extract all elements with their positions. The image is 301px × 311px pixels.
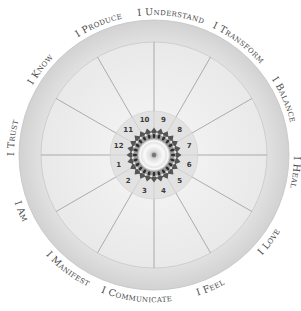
mandala-dot (170, 141, 172, 143)
mandala-dot (133, 146, 135, 148)
house-number: 4 (161, 187, 166, 195)
mandala-dot (132, 151, 134, 153)
mandala-dot (156, 133, 158, 135)
mandala-dot (174, 157, 176, 159)
mandala-dot (136, 141, 138, 143)
mandala-dot (166, 171, 168, 173)
mandala-dot (156, 175, 158, 177)
house-number: 8 (177, 126, 182, 134)
mandala-dot (145, 134, 147, 136)
house-number: 5 (177, 177, 182, 185)
affirmation-label: I TRUST (5, 119, 20, 156)
affirmation-label: I HEAL (288, 156, 301, 189)
house-number: 11 (123, 126, 133, 134)
mandala-dot (132, 157, 134, 159)
mandala-dot (166, 137, 168, 139)
house-number: 1 (116, 161, 121, 169)
mandala-dot (174, 151, 176, 153)
house-number: 12 (114, 142, 124, 150)
mandala-dot (140, 137, 142, 139)
house-number: 9 (161, 116, 166, 124)
mandala-dot (150, 133, 152, 135)
house-number: 3 (142, 187, 147, 195)
mandala-dot (173, 146, 175, 148)
mandala-center-dot (152, 153, 156, 157)
mandala-dot (161, 134, 163, 136)
house-number: 10 (140, 116, 150, 124)
house-number: 7 (187, 142, 192, 150)
mandala-petal (133, 154, 137, 157)
mandala-petal (153, 172, 156, 176)
mandala-dot (161, 174, 163, 176)
mandala-dot (145, 174, 147, 176)
mandala-dot (133, 162, 135, 164)
affirmation-label: I AM (13, 199, 29, 223)
mandala-dot (136, 167, 138, 169)
center-mandala (127, 128, 182, 183)
mandala-dot (173, 162, 175, 164)
mandala-dot (170, 167, 172, 169)
mandala-petal (171, 154, 175, 157)
house-number: 2 (126, 177, 131, 185)
affirmation-wheel: 987654321121110 I UNDERSTANDI TRANSFORMI… (0, 0, 301, 311)
mandala-petal (153, 134, 156, 138)
mandala-dot (150, 175, 152, 177)
mandala-dot (140, 171, 142, 173)
house-number: 6 (187, 161, 192, 169)
